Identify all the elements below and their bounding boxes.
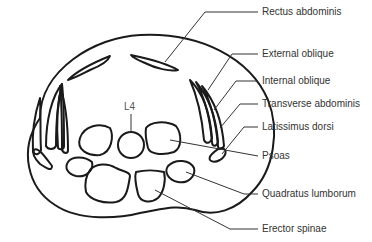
vertebra-label-l4: L4 [124, 101, 135, 113]
label-quadratus-lumborum: Quadratus lumborum [262, 188, 356, 200]
erector-spinae-right [135, 171, 165, 202]
label-rectus-abdominis: Rectus abdominis [262, 6, 341, 18]
leader-erector-spinae [155, 190, 258, 229]
psoas-right [146, 122, 181, 154]
psoas-left [79, 125, 112, 155]
erector-spinae-left [85, 164, 130, 202]
leader-quadratus-lumborum [186, 172, 258, 194]
vertebral-body-l4 [118, 132, 144, 158]
label-internal-oblique: Internal oblique [262, 75, 330, 87]
rectus-abdominis-right [131, 55, 178, 71]
label-psoas: Psoas [262, 150, 290, 162]
leader-internal-oblique [214, 81, 258, 110]
label-erector-spinae: Erector spinae [262, 223, 326, 235]
label-external-oblique: External oblique [262, 48, 334, 60]
quadratus-lumborum-right [166, 161, 194, 182]
leader-psoas [170, 140, 258, 156]
leader-transverse-abdominis [220, 104, 258, 128]
left-latissimus [33, 149, 52, 169]
label-transverse-abdominis: Transverse abdominis [262, 98, 360, 110]
label-latissimus-dorsi: Latissimus dorsi [262, 121, 334, 133]
left-lat-strip [33, 98, 41, 154]
